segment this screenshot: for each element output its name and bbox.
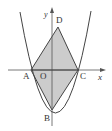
y-axis-arrow-icon <box>50 7 54 13</box>
diagram-canvas: y x O A B C D <box>0 0 112 131</box>
x-axis-label: x <box>97 72 102 82</box>
origin-label: O <box>40 71 47 81</box>
y-axis-label: y <box>43 10 48 19</box>
quadrilateral-abcd <box>31 27 78 110</box>
point-label-b: B <box>44 113 50 123</box>
point-label-d: D <box>56 15 63 25</box>
point-label-a: A <box>23 71 30 81</box>
point-label-c: C <box>80 71 86 81</box>
parabola-diagram: y x O A B C D <box>0 0 112 131</box>
